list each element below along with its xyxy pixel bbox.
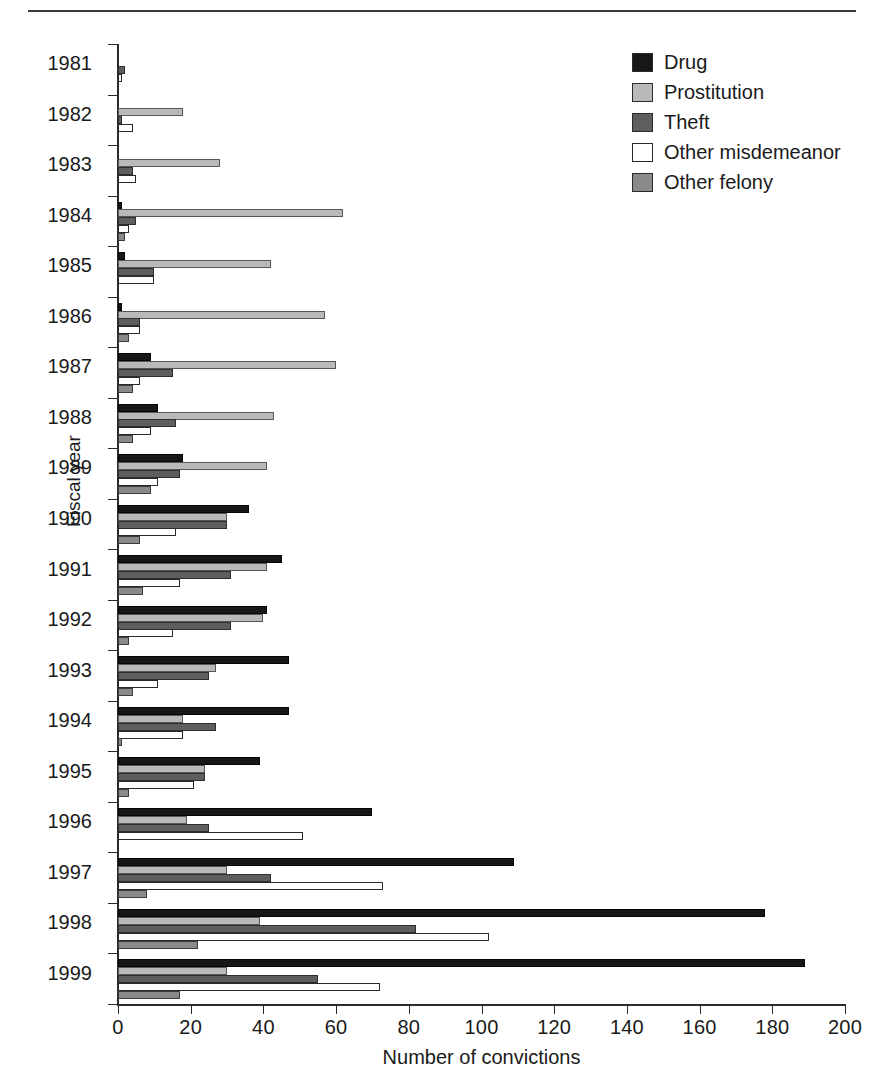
bar-drug-1987 (118, 353, 151, 361)
x-axis-title: Number of convictions (117, 1046, 846, 1069)
y-axis-tick-label: 1992 (0, 608, 104, 631)
bar-theft-1981 (118, 66, 125, 74)
bar-theft-1987 (118, 369, 173, 377)
x-axis-tick (845, 1006, 846, 1014)
legend-swatch-prostitution-icon (632, 83, 653, 102)
legend-label: Prostitution (664, 81, 764, 104)
bar-other-misdemeanor-1998 (118, 933, 489, 941)
bar-other-felony-1984 (118, 233, 125, 241)
bar-prostitution-1995 (118, 765, 205, 773)
bar-drug-1992 (118, 606, 267, 614)
y-axis-tick-label: 1986 (0, 305, 104, 328)
bar-other-felony-1991 (118, 587, 143, 595)
y-axis-tick (108, 448, 117, 449)
legend-item-prostitution: Prostitution (632, 80, 841, 104)
bar-drug-1993 (118, 656, 289, 664)
bar-other-felony-1990 (118, 536, 140, 544)
x-axis-tick-label: 0 (112, 1016, 123, 1039)
bar-prostitution-1983 (118, 159, 220, 167)
bar-prostitution-1997 (118, 866, 227, 874)
y-axis-tick (108, 953, 117, 954)
y-axis-tick (108, 499, 117, 500)
bar-theft-1989 (118, 470, 180, 478)
chart-page: Fiscal year 1981198219831984198519861987… (0, 0, 883, 1085)
x-axis-tick (336, 1006, 337, 1014)
bar-prostitution-1996 (118, 816, 187, 824)
bar-other-felony-1993 (118, 688, 133, 696)
y-axis-tick (108, 196, 117, 197)
bar-other-felony-1988 (118, 435, 133, 443)
y-axis-tick-label: 1998 (0, 911, 104, 934)
bar-other-misdemeanor-1982 (118, 124, 133, 132)
bar-prostitution-1992 (118, 614, 263, 622)
bar-other-misdemeanor-1985 (118, 276, 154, 284)
y-axis-tick-label: 1985 (0, 254, 104, 277)
legend-swatch-other-misdemeanor-icon (632, 143, 653, 162)
legend-label: Drug (664, 51, 707, 74)
y-axis-tick (108, 1004, 117, 1005)
bar-other-misdemeanor-1986 (118, 326, 140, 334)
y-axis-tick-label: 1995 (0, 760, 104, 783)
bar-other-misdemeanor-1981 (118, 74, 122, 82)
bar-drug-1991 (118, 555, 282, 563)
bar-theft-1982 (118, 116, 122, 124)
bar-prostitution-1982 (118, 108, 183, 116)
bar-other-misdemeanor-1993 (118, 680, 158, 688)
x-axis-tick-label: 120 (537, 1016, 571, 1039)
bar-theft-1993 (118, 672, 209, 680)
y-axis-tick (108, 802, 117, 803)
y-axis-tick-label: 1987 (0, 355, 104, 378)
bar-prostitution-1985 (118, 260, 271, 268)
x-axis-tick (772, 1006, 773, 1014)
bar-theft-1988 (118, 419, 176, 427)
y-axis-tick (108, 751, 117, 752)
x-axis-tick (482, 1006, 483, 1014)
y-axis-tick-label: 1983 (0, 153, 104, 176)
bar-prostitution-1990 (118, 513, 227, 521)
x-axis-tick (263, 1006, 264, 1014)
y-axis-tick (108, 145, 117, 146)
x-axis-tick-label: 200 (828, 1016, 862, 1039)
bar-drug-1990 (118, 505, 249, 513)
x-axis-tick-label: 160 (683, 1016, 717, 1039)
bar-theft-1983 (118, 167, 133, 175)
y-axis-tick (108, 600, 117, 601)
x-axis-tick (118, 1006, 119, 1014)
bar-other-misdemeanor-1983 (118, 175, 136, 183)
bar-other-misdemeanor-1989 (118, 478, 158, 486)
bar-other-misdemeanor-1996 (118, 832, 303, 840)
y-axis-tick-labels: 1981198219831984198519861987198819891990… (0, 0, 104, 1085)
bar-theft-1984 (118, 217, 136, 225)
bar-theft-1998 (118, 925, 416, 933)
bar-theft-1999 (118, 975, 318, 983)
legend-item-other-misdemeanor: Other misdemeanor (632, 140, 841, 164)
bar-theft-1986 (118, 318, 140, 326)
bar-other-misdemeanor-1997 (118, 882, 383, 890)
legend-label: Theft (664, 111, 710, 134)
y-axis-tick (108, 95, 117, 96)
x-axis-tick-label: 80 (397, 1016, 420, 1039)
bar-other-felony-1989 (118, 486, 151, 494)
bar-theft-1985 (118, 268, 154, 276)
y-axis-tick-label: 1984 (0, 204, 104, 227)
top-divider-rule (28, 10, 856, 12)
bar-drug-1999 (118, 959, 805, 967)
y-axis-tick-label: 1982 (0, 103, 104, 126)
bar-other-felony-1999 (118, 991, 180, 999)
bar-prostitution-1987 (118, 361, 336, 369)
x-axis-tick (409, 1006, 410, 1014)
x-axis-tick (627, 1006, 628, 1014)
y-axis-tick (108, 347, 117, 348)
bar-other-misdemeanor-1999 (118, 983, 380, 991)
x-axis-tick (191, 1006, 192, 1014)
legend-item-other-felony: Other felony (632, 170, 841, 194)
bar-other-misdemeanor-1995 (118, 781, 194, 789)
bar-prostitution-1991 (118, 563, 267, 571)
bar-prostitution-1998 (118, 917, 260, 925)
bar-prostitution-1989 (118, 462, 267, 470)
bar-theft-1995 (118, 773, 205, 781)
legend-swatch-theft-icon (632, 113, 653, 132)
bar-other-misdemeanor-1991 (118, 579, 180, 587)
bar-theft-1997 (118, 874, 271, 882)
legend-swatch-drug-icon (632, 53, 653, 72)
